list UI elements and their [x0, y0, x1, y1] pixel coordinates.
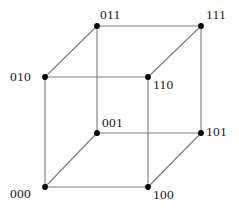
vertex-label-011: 011 [100, 8, 120, 22]
cube-vertex-001 [94, 130, 100, 136]
cube-vertex-110 [145, 74, 151, 80]
cube-edge-000-001 [45, 133, 97, 187]
cube-vertex-000 [42, 184, 48, 190]
vertex-label-110: 110 [153, 78, 173, 92]
cube-vertex-101 [198, 130, 204, 136]
cube-graphic [0, 0, 239, 210]
cube-vertex-111 [198, 23, 204, 29]
cube-vertex-100 [145, 184, 151, 190]
cube-edge-111-110 [148, 26, 201, 77]
vertex-label-010: 010 [10, 70, 31, 84]
cube-edge-010-011 [45, 26, 97, 77]
vertex-label-001: 001 [102, 116, 123, 130]
vertex-label-100: 100 [153, 188, 174, 202]
vertex-label-000: 000 [10, 187, 31, 201]
edge-layer [45, 26, 201, 187]
cube-edge-100-101 [148, 133, 201, 187]
cube-vertex-011 [94, 23, 100, 29]
vertex-label-111: 111 [206, 8, 226, 22]
vertex-label-101: 101 [206, 125, 227, 139]
cube-diagram: 000100001101010110011111 [0, 0, 239, 210]
cube-vertex-010 [42, 74, 48, 80]
